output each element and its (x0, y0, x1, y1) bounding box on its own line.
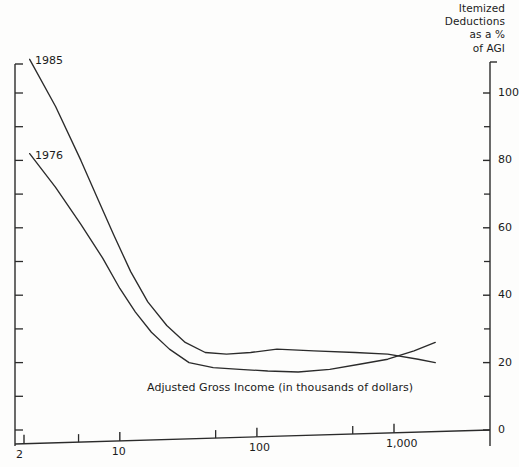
series-line-1985 (30, 59, 436, 362)
series-line-1976 (30, 154, 436, 372)
y-tick-label: 80 (498, 153, 512, 166)
chart-plot-area (0, 0, 519, 467)
data-series-group (30, 59, 436, 372)
x-tick-label: 2 (16, 448, 23, 461)
y-tick-label: 0 (498, 423, 505, 436)
x-tick-label: 1,000 (386, 437, 418, 450)
series-label-1985: 1985 (35, 54, 63, 67)
y-tick-label: 40 (498, 288, 512, 301)
x-tick-label: 100 (249, 441, 270, 454)
series-label-1976: 1976 (35, 149, 63, 162)
x-tick-label: 10 (112, 445, 126, 458)
chart-figure: Itemized Deductions as a % of AGI 1985 1… (0, 0, 519, 467)
y-tick-label: 60 (498, 221, 512, 234)
y-tick-label: 20 (498, 356, 512, 369)
y-tick-label: 100 (498, 86, 519, 99)
x-axis-label: Adjusted Gross Income (in thousands of d… (147, 381, 413, 394)
